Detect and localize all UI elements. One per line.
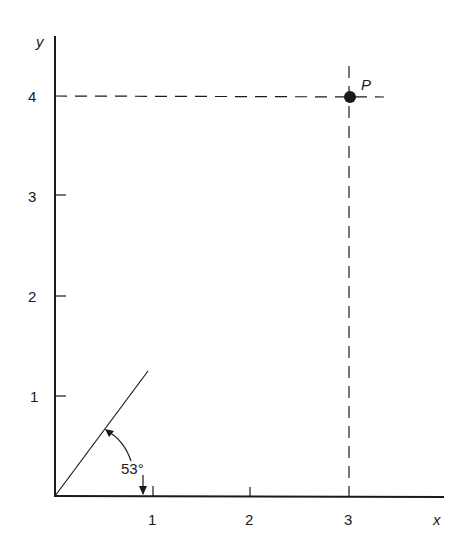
angle-label: 53° (121, 460, 144, 477)
angle-arrow-head-bottom (139, 486, 147, 495)
x-tick-label-2: 2 (245, 511, 253, 528)
coordinate-diagram: P 53° 4 3 2 1 1 2 3 y x (0, 0, 469, 558)
point-p-marker (344, 91, 356, 103)
y-tick-label-1: 1 (30, 388, 38, 405)
x-tick-label-1: 1 (148, 511, 156, 528)
angle-arrow-head-top (105, 429, 114, 437)
x-axis-label: x (432, 511, 441, 528)
y-tick-label-4: 4 (28, 88, 36, 105)
x-axis (54, 496, 444, 497)
dashed-guide-horizontal (55, 96, 384, 97)
angled-line (55, 371, 148, 496)
y-tick-label-2: 2 (28, 288, 36, 305)
angle-arc (107, 431, 131, 461)
y-axis-label: y (35, 33, 45, 50)
x-tick-label-3: 3 (344, 511, 352, 528)
point-p-label: P (361, 76, 371, 93)
y-tick-label-3: 3 (28, 188, 36, 205)
